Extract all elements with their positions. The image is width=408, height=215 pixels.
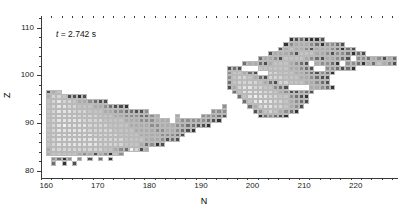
x-tick-top	[206, 16, 207, 18]
x-tick-top	[124, 16, 125, 18]
y-tick-minor	[39, 161, 41, 162]
y-tick-minor	[39, 18, 41, 19]
heatmap-cell	[222, 114, 227, 119]
x-tick-top	[351, 16, 352, 18]
x-tick-minor	[103, 178, 104, 180]
x-tick-top	[155, 16, 156, 18]
y-tick-major	[37, 28, 41, 29]
heatmap-cell	[191, 128, 196, 133]
y-tick-label: 100	[10, 71, 34, 79]
heatmap-cell	[309, 90, 314, 95]
x-tick-minor	[196, 178, 197, 180]
heatmap-cell	[216, 118, 221, 123]
x-tick-minor	[247, 178, 248, 180]
x-tick-top	[361, 16, 362, 18]
heatmap-cell	[77, 157, 82, 162]
y-tick-label: 80	[10, 167, 34, 175]
heatmap-cell	[87, 157, 92, 162]
x-tick-top	[113, 16, 114, 18]
x-tick-minor	[340, 178, 341, 180]
heatmap-cell	[206, 123, 211, 128]
y-tick-major	[37, 123, 41, 124]
y-tick-minor	[39, 114, 41, 115]
x-tick-top	[196, 16, 197, 18]
x-tick-minor	[382, 178, 383, 180]
x-tick-top	[216, 16, 217, 18]
y-axis-line	[41, 18, 42, 178]
heatmap-cell	[180, 133, 185, 138]
x-tick-top	[237, 16, 238, 18]
x-tick-top	[371, 16, 372, 18]
heatmap-cell	[175, 137, 180, 142]
y-tick-label: 110	[10, 24, 34, 32]
x-tick-minor	[392, 178, 393, 180]
x-tick-minor	[41, 178, 42, 180]
y-tick-minor	[39, 85, 41, 86]
x-tick-label: 200	[246, 182, 259, 190]
heatmap-cell	[330, 85, 335, 90]
x-tick-top	[340, 16, 341, 18]
heatmap-cell	[51, 161, 56, 166]
x-tick-minor	[206, 178, 207, 180]
heatmap-cell-layer	[41, 18, 397, 178]
heatmap-cell	[144, 147, 149, 152]
x-tick-minor	[51, 178, 52, 180]
x-tick-minor	[185, 178, 186, 180]
x-tick-label: 180	[143, 182, 156, 190]
y-tick-minor	[39, 133, 41, 134]
heatmap-cell	[62, 161, 67, 166]
heatmap-cell	[118, 152, 123, 157]
x-tick-top	[185, 16, 186, 18]
heatmap-cell	[108, 157, 113, 162]
x-tick-label: 190	[194, 182, 207, 190]
y-tick-minor	[39, 56, 41, 57]
heatmap-cell	[361, 51, 366, 56]
heatmap-cell	[160, 142, 165, 147]
heatmap-cell	[299, 104, 304, 109]
x-tick-top	[103, 16, 104, 18]
x-tick-top	[382, 16, 383, 18]
x-tick-minor	[124, 178, 125, 180]
x-tick-minor	[82, 178, 83, 180]
time-value: = 2.742 s	[58, 29, 96, 39]
y-axis-label: Z	[2, 93, 12, 99]
y-tick-minor	[39, 94, 41, 95]
heatmap-cell	[325, 75, 330, 80]
x-tick-top	[41, 16, 42, 18]
x-tick-top	[82, 16, 83, 18]
heatmap-cell	[392, 61, 397, 66]
x-tick-minor	[268, 178, 269, 180]
x-tick-top	[72, 16, 73, 18]
x-tick-top	[268, 16, 269, 18]
x-tick-minor	[361, 178, 362, 180]
heatmap-cell	[98, 157, 103, 162]
x-tick-minor	[93, 178, 94, 180]
x-tick-minor	[72, 178, 73, 180]
x-tick-minor	[155, 178, 156, 180]
x-tick-top	[165, 16, 166, 18]
heatmap-plot-area	[41, 18, 397, 178]
y-tick-label: 90	[10, 119, 34, 127]
x-tick-minor	[309, 178, 310, 180]
x-tick-top	[93, 16, 94, 18]
y-tick-major	[37, 75, 41, 76]
x-tick-minor	[227, 178, 228, 180]
x-tick-top	[62, 16, 63, 18]
x-tick-top	[51, 16, 52, 18]
x-tick-minor	[62, 178, 63, 180]
heatmap-cell	[392, 56, 397, 61]
x-tick-minor	[258, 178, 259, 180]
y-tick-minor	[39, 37, 41, 38]
x-tick-top	[289, 16, 290, 18]
y-tick-minor	[39, 152, 41, 153]
x-tick-minor	[289, 178, 290, 180]
x-tick-minor	[175, 178, 176, 180]
x-tick-minor	[134, 178, 135, 180]
heatmap-cell	[304, 99, 309, 104]
x-tick-top	[392, 16, 393, 18]
figure-root: 1601701801902002102208090100110 N Z t = …	[0, 0, 408, 215]
x-axis-label: N	[0, 196, 408, 206]
x-tick-minor	[113, 178, 114, 180]
x-tick-minor	[278, 178, 279, 180]
heatmap-cell	[72, 161, 77, 166]
